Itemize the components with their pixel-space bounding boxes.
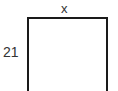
left-side-label: 21 xyxy=(3,44,19,60)
top-side-label: x xyxy=(61,1,68,16)
square-shape xyxy=(27,17,108,91)
